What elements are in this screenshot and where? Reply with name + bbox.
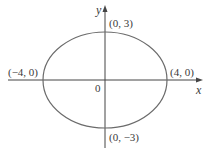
ellipse-diagram: y x 0 (0, 3) (−4, 0) (4, 0) (0, −3) [0, 0, 210, 158]
point-label-right: (4, 0) [170, 67, 194, 78]
diagram-canvas [0, 0, 210, 158]
x-axis-arrow-icon [196, 78, 203, 83]
y-axis-label: y [96, 4, 101, 16]
point-label-left: (−4, 0) [8, 67, 38, 78]
point-label-bottom: (0, −3) [109, 132, 139, 143]
origin-label: 0 [95, 83, 101, 94]
x-axis-label: x [196, 84, 201, 96]
y-axis-arrow-icon [103, 5, 108, 12]
point-label-top: (0, 3) [109, 18, 133, 29]
